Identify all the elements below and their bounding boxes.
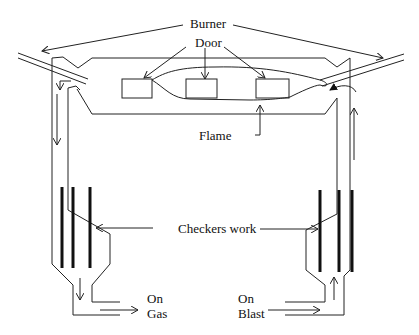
flow-right-ascent (268, 108, 354, 310)
right-regenerator (285, 58, 350, 315)
label-on-blast-2: Blast (238, 306, 265, 321)
hearth-chamber (52, 57, 350, 114)
label-burner: Burner (190, 16, 227, 31)
label-flame: Flame (199, 128, 232, 143)
flow-arrow-right-top (330, 86, 356, 92)
leader-lines (42, 25, 383, 229)
furnace-diagram: Burner Door Flame Checkers work On Gas O… (0, 0, 419, 335)
flow-left-descent (57, 81, 138, 310)
label-door: Door (195, 35, 222, 50)
label-on-gas-2: Gas (147, 306, 167, 321)
left-regenerator (52, 58, 120, 315)
burner-right (320, 54, 404, 86)
label-on-gas-1: On (147, 291, 163, 306)
door-3 (256, 79, 289, 98)
door-1 (122, 79, 152, 98)
door-2 (186, 79, 217, 98)
label-on-blast-1: On (238, 291, 254, 306)
label-checkers-work: Checkers work (178, 221, 257, 236)
flame-envelope (152, 67, 327, 100)
checkers-left (62, 187, 90, 268)
checkers-right (320, 190, 352, 272)
